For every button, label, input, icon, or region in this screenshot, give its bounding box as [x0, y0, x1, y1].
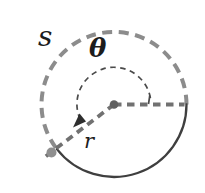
angle-theta-arc: [77, 67, 150, 119]
angle-arc-start-tick: [149, 96, 150, 105]
center-point-dot: [110, 100, 119, 109]
angle-arrowhead-icon: [73, 114, 86, 128]
circle-diagram: s θ r: [0, 0, 205, 193]
angle-label: θ: [89, 33, 107, 63]
figure-canvas: s θ r: [0, 0, 205, 193]
radius-r-line: [46, 105, 115, 157]
arc-remainder-solid: [57, 105, 187, 177]
radius-label: r: [84, 129, 96, 153]
arc-length-label: s: [38, 20, 52, 53]
arc-s-dashed: [42, 32, 187, 149]
arc-endpoint-dot: [47, 148, 57, 158]
